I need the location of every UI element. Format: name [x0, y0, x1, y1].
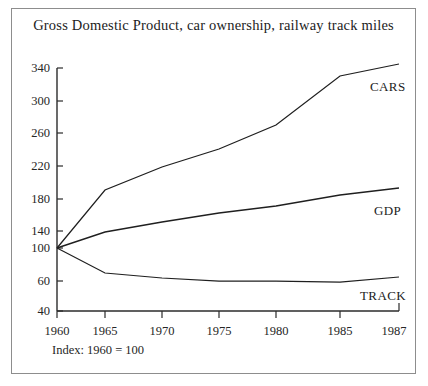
- x-tick-label: 1970: [150, 324, 175, 339]
- y-tick-label: 340: [16, 61, 50, 76]
- x-tick-label: 1980: [264, 324, 289, 339]
- series-label-track: TRACK: [360, 288, 406, 304]
- index-note: Index: 1960 = 100: [52, 343, 144, 358]
- x-tick-label: 1975: [207, 324, 232, 339]
- y-tick-label: 140: [16, 224, 50, 239]
- x-tick-label: 1960: [45, 324, 70, 339]
- x-tick-label: 1987: [382, 324, 407, 339]
- y-tick-label: 100: [16, 241, 50, 256]
- y-tick-label: 220: [16, 159, 50, 174]
- page-title: Gross Domestic Product, car ownership, r…: [11, 17, 416, 34]
- figure-frame: [11, 8, 416, 374]
- y-tick-label: 40: [16, 304, 50, 319]
- y-tick-label: 300: [16, 94, 50, 109]
- chart-figure: Gross Domestic Product, car ownership, r…: [0, 0, 428, 386]
- y-tick-label: 180: [16, 192, 50, 207]
- series-label-gdp: GDP: [374, 203, 401, 219]
- series-label-cars: CARS: [370, 79, 406, 95]
- y-tick-label: 60: [16, 274, 50, 289]
- x-tick-label: 1965: [93, 324, 118, 339]
- y-tick-label: 260: [16, 126, 50, 141]
- x-tick-label: 1985: [328, 324, 353, 339]
